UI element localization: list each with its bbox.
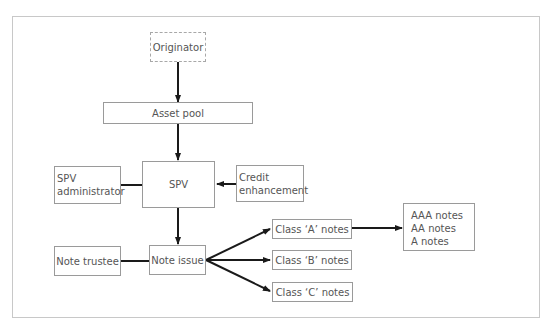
class-b-label: Class ‘B’ notes [275,254,349,267]
credit-line1: Credit [239,171,305,184]
spv-label: SPV [169,178,188,191]
node-spv: SPV [142,161,215,208]
spv-admin-line1: SPV [57,172,122,185]
originator-label: Originator [153,41,204,54]
credit-line2: enhancement [239,184,305,197]
node-class-a: Class ‘A’ notes [272,219,352,239]
node-ratings: AAA notes AA notes A notes [403,203,475,251]
node-asset-pool: Asset pool [103,102,253,124]
note-trustee-label: Note trustee [56,255,119,268]
edge-noteissue-classa [206,229,270,260]
node-spv-administrator: SPV administrator [54,166,121,204]
asset-pool-label: Asset pool [152,107,204,120]
class-a-label: Class ‘A’ notes [275,223,349,236]
ratings-aaa: AAA notes [411,209,474,222]
node-credit-enhancement: Credit enhancement [236,165,304,202]
note-issue-label: Note issue [151,254,204,267]
edge-noteissue-classc [206,260,270,291]
ratings-a: A notes [411,235,474,248]
node-class-b: Class ‘B’ notes [272,250,352,270]
node-note-issue: Note issue [149,245,206,275]
node-class-c: Class ‘C’ notes [272,282,353,302]
ratings-aa: AA notes [411,222,474,235]
node-note-trustee: Note trustee [54,246,121,276]
spv-admin-line2: administrator [57,185,122,198]
node-originator: Originator [150,32,206,62]
class-c-label: Class ‘C’ notes [276,286,350,299]
